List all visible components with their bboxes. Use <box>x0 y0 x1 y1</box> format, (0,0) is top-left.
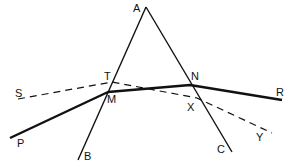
prism-side-ab <box>78 7 146 160</box>
label-n: N <box>191 70 199 82</box>
label-t: T <box>104 70 111 82</box>
label-r: R <box>276 86 284 98</box>
label-a: A <box>133 2 141 14</box>
label-x: X <box>187 101 195 113</box>
label-c: C <box>217 143 225 155</box>
prism-diagram: A B C T M N X S P R Y <box>0 0 289 164</box>
label-b: B <box>84 150 91 162</box>
label-s: S <box>15 87 22 99</box>
label-y: Y <box>256 131 264 143</box>
label-m: M <box>107 93 116 105</box>
prism-side-ac <box>146 7 232 152</box>
label-p: P <box>17 137 24 149</box>
ray-path-pmnr <box>10 85 282 138</box>
